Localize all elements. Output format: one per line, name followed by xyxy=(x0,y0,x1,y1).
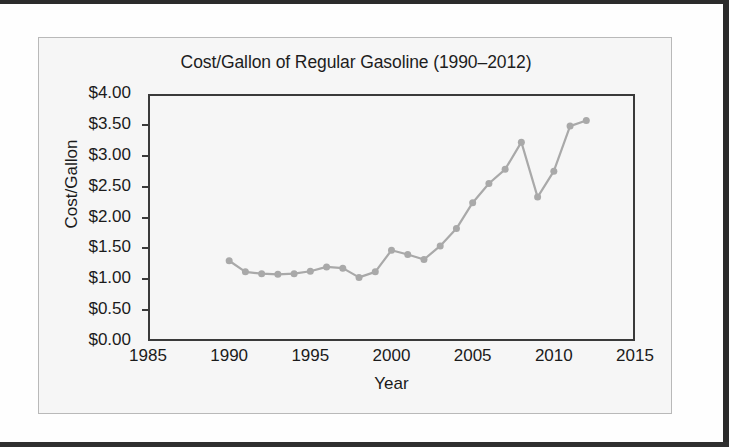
data-point-marker xyxy=(550,168,557,175)
x-axis-tick-label: 1990 xyxy=(189,346,269,366)
data-point-marker xyxy=(404,251,411,258)
data-point-marker xyxy=(274,271,281,278)
chart-title: Cost/Gallon of Regular Gasoline (1990–20… xyxy=(39,52,673,73)
x-axis-tick-label: 2010 xyxy=(514,346,594,366)
x-axis-tick-label: 2005 xyxy=(433,346,513,366)
x-axis-tick-label: 1985 xyxy=(108,346,188,366)
scan-edge-bottom xyxy=(0,442,729,447)
data-point-marker xyxy=(534,194,541,201)
data-point-marker xyxy=(356,274,363,281)
y-axis-tick-label: $3.50 xyxy=(45,114,131,134)
y-axis-tick-label: $3.00 xyxy=(45,145,131,165)
data-point-marker xyxy=(339,265,346,272)
y-axis-tick-label: $2.00 xyxy=(45,207,131,227)
y-axis-tick-label: $4.00 xyxy=(45,83,131,103)
y-axis-tick-label: $1.50 xyxy=(45,237,131,257)
data-point-marker xyxy=(226,257,233,264)
data-point-marker xyxy=(453,225,460,232)
data-point-marker xyxy=(518,139,525,146)
data-point-marker xyxy=(323,263,330,270)
data-point-marker xyxy=(258,270,265,277)
x-axis-tick-label: 1995 xyxy=(270,346,350,366)
data-point-marker xyxy=(469,199,476,206)
data-point-marker xyxy=(242,268,249,275)
y-axis-tick-label: $0.50 xyxy=(45,299,131,319)
series-line-cost-per-gallon xyxy=(148,94,635,341)
scan-edge-right xyxy=(723,0,729,447)
plot-area xyxy=(148,94,635,341)
data-point-marker xyxy=(502,166,509,173)
data-point-marker xyxy=(420,256,427,263)
data-point-marker xyxy=(291,270,298,277)
x-axis-title: Year xyxy=(148,374,635,394)
x-axis-tick-label: 2000 xyxy=(352,346,432,366)
y-axis-tick-label: $2.50 xyxy=(45,176,131,196)
data-point-marker xyxy=(388,247,395,254)
x-axis-tick-label: 2015 xyxy=(595,346,675,366)
data-point-marker xyxy=(372,268,379,275)
gasoline-price-line-chart: Cost/Gallon of Regular Gasoline (1990–20… xyxy=(39,38,673,415)
data-point-marker xyxy=(567,123,574,130)
data-point-marker xyxy=(583,117,590,124)
data-point-marker xyxy=(485,180,492,187)
y-axis-tick-label: $1.00 xyxy=(45,268,131,288)
data-point-marker xyxy=(307,268,314,275)
data-point-marker xyxy=(437,242,444,249)
page-surface: Cost/Gallon of Regular Gasoline (1990–20… xyxy=(0,4,723,442)
figure-frame: Cost/Gallon of Regular Gasoline (1990–20… xyxy=(38,37,672,414)
